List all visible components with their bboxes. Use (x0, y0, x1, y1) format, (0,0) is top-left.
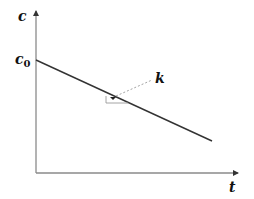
x-axis-label: t (229, 179, 236, 195)
y-axis-label: c (18, 8, 27, 24)
decay-line (36, 60, 212, 141)
intercept-label: c0 (15, 51, 31, 69)
slope-label: k (155, 70, 165, 86)
concentration-time-diagram: c t c0 k (0, 0, 254, 199)
slope-leader-line (116, 80, 152, 96)
slope-angle-mark (110, 97, 116, 100)
